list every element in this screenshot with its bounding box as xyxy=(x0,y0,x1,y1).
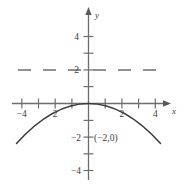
cartesian-plot: −4 2 2 4 4 2 −2 −4 y x (−2,0) xyxy=(0,0,184,191)
x-tick-label-2: 2 xyxy=(120,109,125,119)
x-tick-label--4: −4 xyxy=(17,109,27,119)
graph-figure: −4 2 2 4 4 2 −2 −4 y x (−2,0) xyxy=(0,0,184,191)
x-tick-label--2: 2 xyxy=(53,109,58,119)
point-label-minus2-0: (−2,0) xyxy=(94,133,118,144)
y-tick-label--4: −4 xyxy=(71,166,81,176)
y-tick-label-4: 4 xyxy=(74,32,79,42)
x-tick-label-4: 4 xyxy=(153,109,158,119)
x-axis-arrowhead xyxy=(163,100,171,106)
y-tick-label-2: 2 xyxy=(74,65,79,75)
x-axis-label: x xyxy=(171,106,176,116)
y-tick-label--2: −2 xyxy=(71,133,81,143)
y-axis-label: y xyxy=(94,10,99,20)
y-axis-arrowhead xyxy=(85,7,91,15)
